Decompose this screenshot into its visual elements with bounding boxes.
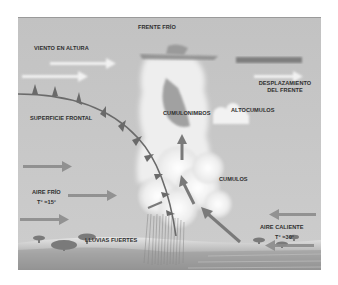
warm-air-temp: T° ≈30° [275, 234, 294, 241]
front-movement-band [236, 57, 302, 63]
front-movement-label-line2: DEL FRENTE [250, 87, 320, 94]
heavy-rain-label: LLUVIAS FUERTES [85, 237, 137, 244]
front-movement-label: DESPLAZAMIENTO DEL FRENTE [250, 80, 320, 94]
cumulus-label: CUMULOS [219, 176, 248, 183]
diagram-title: FRENTE FRÍO [138, 24, 176, 31]
frontal-surface-label: SUPERFICIE FRONTAL [30, 115, 92, 122]
cold-air-temp: T° ≈15° [37, 199, 56, 206]
cold-front-diagram: FRENTE FRÍO VIENTO EN ALTURA DESPLAZAMIE… [18, 17, 321, 270]
warm-air-label: AIRE CALIENTE [260, 224, 304, 231]
upper-wind-label: VIENTO EN ALTURA [34, 45, 89, 52]
altocumulus-label: ALTOCUMULOS [231, 107, 275, 114]
cumulonimbus-label: CUMULONIMBOS [163, 110, 211, 117]
diagram-graphics [18, 18, 321, 270]
front-movement-label-line1: DESPLAZAMIENTO [250, 80, 320, 87]
cold-air-label: AIRE FRÍO [32, 189, 61, 196]
